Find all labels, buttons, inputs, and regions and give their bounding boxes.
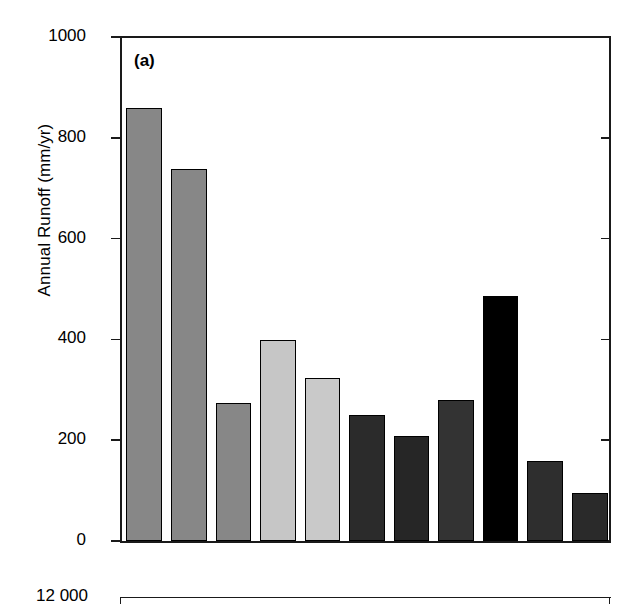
panel-label: (a)	[134, 51, 155, 71]
y-axis-tick-mark	[111, 540, 120, 542]
bar	[216, 403, 252, 541]
y-axis-tick-mark	[111, 439, 120, 441]
y-axis-tick-mark	[111, 137, 120, 139]
y-axis-tick-mark	[111, 339, 120, 341]
panel-b-axis-line-right	[609, 597, 610, 604]
bar	[394, 436, 430, 541]
y-axis-tick-mark	[111, 238, 120, 240]
bar	[349, 415, 385, 541]
bar	[305, 378, 341, 541]
axis-line-bottom	[120, 541, 611, 543]
bar	[572, 493, 608, 541]
bar-series	[120, 37, 610, 541]
bar	[438, 400, 474, 541]
bar	[260, 340, 296, 541]
figure-canvas: Annual Runoff (mm/yr) 02004006008001000 …	[0, 0, 639, 604]
panel-b-axis-line-left	[120, 597, 121, 604]
bar	[126, 108, 162, 541]
bar	[171, 169, 207, 541]
y-axis-tick-mark	[111, 36, 120, 38]
panel-b: 12 000	[0, 560, 639, 604]
panel-a: Annual Runoff (mm/yr) 02004006008001000 …	[0, 0, 639, 560]
panel-b-y-tick-label-top: 12 000	[36, 586, 88, 604]
bar	[527, 461, 563, 541]
panel-b-axis-line-top	[120, 597, 611, 598]
bar	[483, 296, 519, 541]
y-axis-label: Annual Runoff (mm/yr)	[35, 70, 55, 350]
